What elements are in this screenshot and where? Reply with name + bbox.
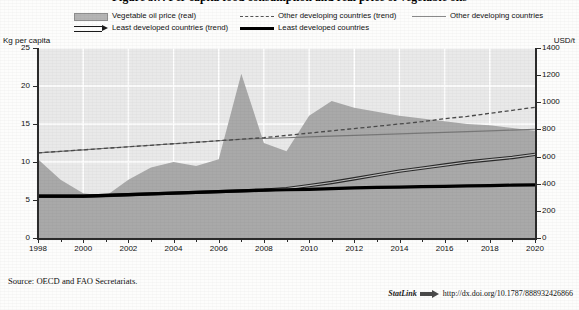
y-tick-label-left: 5	[4, 195, 30, 204]
thick-line-swatch-icon	[240, 24, 274, 33]
x-tick-mark	[467, 239, 468, 242]
x-tick-label: 2006	[202, 244, 236, 253]
area-swatch-icon	[74, 12, 108, 21]
y-tick-mark-left	[33, 48, 37, 49]
x-tick-mark	[196, 239, 197, 242]
x-tick-label: 2000	[66, 244, 100, 253]
y-tick-mark-right	[537, 129, 541, 130]
x-tick-label: 1998	[21, 244, 55, 253]
legend-item-least-developed-trend[interactable]: Least developed countries (trend)	[74, 23, 228, 34]
series-vegetable-oil-price-area	[38, 74, 535, 238]
legend-label: Least developed countries (trend)	[112, 23, 228, 34]
y-tick-label-right: 1200	[542, 70, 572, 79]
x-tick-mark	[287, 239, 288, 242]
x-tick-mark	[309, 239, 310, 243]
x-tick-mark	[490, 239, 491, 243]
y-tick-mark-left	[33, 86, 37, 87]
statlink-footer[interactable]: StatLink http://dx.doi.org/10.1787/88893…	[388, 289, 573, 298]
x-tick-mark	[332, 239, 333, 242]
y-tick-label-left: 20	[4, 81, 30, 90]
x-tick-label: 2020	[518, 244, 552, 253]
legend-item-vegetable-oil-price[interactable]: Vegetable oil price (real)	[74, 11, 196, 22]
y-tick-label-right: 400	[542, 179, 572, 188]
legend-label: Vegetable oil price (real)	[112, 11, 196, 22]
legend-label: Least developed countries	[278, 23, 369, 34]
y-tick-mark-right	[537, 211, 541, 212]
y-tick-mark-right	[537, 238, 541, 239]
y-tick-label-right: 800	[542, 124, 572, 133]
x-tick-mark	[83, 239, 84, 243]
x-tick-mark	[535, 239, 536, 243]
y-tick-mark-right	[537, 184, 541, 185]
y-tick-mark-right	[537, 157, 541, 158]
x-tick-mark	[174, 239, 175, 243]
legend-label: Other developing countries (trend)	[278, 11, 396, 22]
y-tick-label-left: 0	[4, 233, 30, 242]
y-tick-mark-left	[33, 162, 37, 163]
y-tick-label-right: 0	[542, 233, 572, 242]
thin-line-swatch-icon	[412, 12, 446, 21]
y-tick-label-left: 25	[4, 43, 30, 52]
x-tick-label: 2012	[337, 244, 371, 253]
x-tick-mark	[128, 239, 129, 243]
x-tick-mark	[445, 239, 446, 243]
x-tick-label: 2002	[111, 244, 145, 253]
statlink-arrow-icon	[420, 290, 440, 298]
source-note: Source: OECD and FAO Secretariats.	[8, 276, 137, 286]
y-axis-left-line	[37, 48, 39, 239]
y-tick-mark-right	[537, 48, 541, 49]
y-tick-label-right: 200	[542, 206, 572, 215]
x-tick-mark	[512, 239, 513, 242]
y-tick-label-left: 10	[4, 157, 30, 166]
x-tick-label: 2014	[383, 244, 417, 253]
x-tick-mark	[241, 239, 242, 242]
chart-legend: Vegetable oil price (real) Least develop…	[34, 11, 554, 34]
x-tick-label: 2004	[157, 244, 191, 253]
x-tick-mark	[219, 239, 220, 243]
legend-item-least-developed[interactable]: Least developed countries	[240, 23, 369, 34]
x-tick-mark	[151, 239, 152, 242]
y-tick-label-left: 15	[4, 119, 30, 128]
x-tick-mark	[61, 239, 62, 242]
y-tick-mark-left	[33, 238, 37, 239]
x-tick-mark	[354, 239, 355, 243]
x-tick-label: 2018	[473, 244, 507, 253]
y-tick-label-right: 600	[542, 152, 572, 161]
y-tick-label-right: 1000	[542, 97, 572, 106]
y-tick-mark-right	[537, 102, 541, 103]
y-tick-mark-right	[537, 75, 541, 76]
legend-item-other-developing-trend[interactable]: Other developing countries (trend)	[240, 11, 396, 22]
dashed-line-swatch-icon	[240, 12, 274, 21]
x-tick-mark	[38, 239, 39, 243]
trend-arrow-swatch-icon	[74, 24, 108, 33]
x-tick-mark	[422, 239, 423, 242]
y-tick-mark-left	[33, 124, 37, 125]
statlink-label: StatLink	[388, 289, 416, 298]
plot-area	[38, 48, 535, 238]
x-tick-label: 2008	[247, 244, 281, 253]
x-tick-mark	[400, 239, 401, 243]
x-tick-mark	[106, 239, 107, 242]
chart-canvas	[38, 48, 535, 238]
x-tick-label: 2010	[292, 244, 326, 253]
x-tick-label: 2016	[428, 244, 462, 253]
legend-label: Other developing countries	[450, 11, 543, 22]
legend-item-other-developing[interactable]: Other developing countries	[412, 11, 543, 22]
y-tick-mark-left	[33, 200, 37, 201]
figure-title: Figure 3.7. Per capita food consumption …	[0, 0, 579, 7]
x-tick-mark	[264, 239, 265, 243]
statlink-url[interactable]: http://dx.doi.org/10.1787/888932426866	[443, 289, 573, 298]
y-tick-label-right: 1400	[542, 43, 572, 52]
x-tick-mark	[377, 239, 378, 242]
